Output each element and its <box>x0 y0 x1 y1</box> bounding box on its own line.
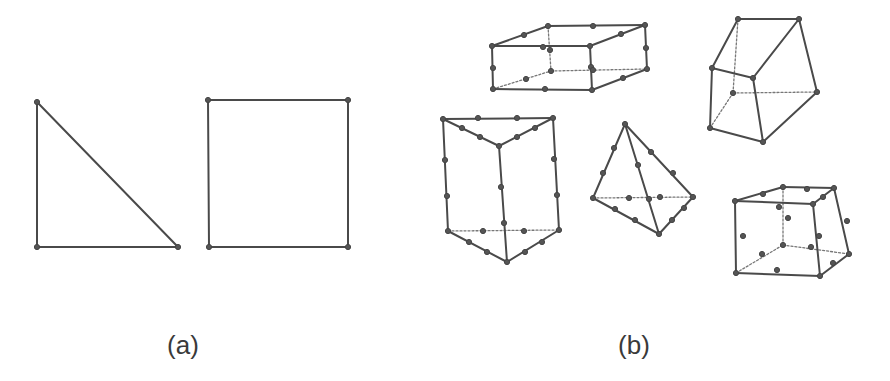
node-point <box>539 239 544 244</box>
node-point <box>206 244 211 249</box>
node-point <box>205 97 210 102</box>
node-point <box>831 185 836 190</box>
node-point <box>820 194 825 199</box>
node-point <box>489 43 494 48</box>
node-point <box>635 162 640 167</box>
edge <box>735 187 783 201</box>
node-point <box>514 134 519 139</box>
node-point <box>681 205 686 210</box>
node-point <box>643 45 648 50</box>
node-point <box>445 228 450 233</box>
node-point <box>646 196 651 201</box>
node-point <box>656 231 661 236</box>
node-point <box>345 97 350 102</box>
hidden-edge <box>493 71 551 89</box>
node-point <box>780 184 785 189</box>
node-point <box>496 143 501 148</box>
node-point <box>814 89 819 94</box>
node-point <box>707 125 712 130</box>
edge <box>443 118 553 119</box>
hidden-edge <box>551 69 647 71</box>
panel-b-3d-elements <box>440 16 851 278</box>
edge <box>507 230 559 262</box>
node-point <box>590 195 595 200</box>
node-point <box>642 22 647 27</box>
node-point <box>547 47 552 52</box>
node-point <box>442 157 447 162</box>
edge <box>813 204 820 276</box>
node-point <box>618 31 623 36</box>
edge <box>735 201 736 273</box>
tetrahedron-10-node-element <box>590 121 695 236</box>
node-point <box>776 204 781 209</box>
node-point <box>690 194 695 199</box>
edge <box>659 197 693 234</box>
node-point <box>632 217 637 222</box>
node-point <box>612 206 617 211</box>
node-point <box>477 134 482 139</box>
node-point <box>490 86 495 91</box>
node-point <box>626 195 631 200</box>
edge <box>712 19 738 68</box>
node-point <box>774 267 779 272</box>
caption-label-a: (a) <box>167 330 199 361</box>
hidden-edge <box>593 197 693 198</box>
node-point <box>587 43 592 48</box>
node-point <box>733 270 738 275</box>
node-point <box>846 251 851 256</box>
edge <box>753 78 763 142</box>
hidden-edge <box>733 19 738 93</box>
node-point <box>514 115 519 120</box>
node-point <box>760 191 765 196</box>
quadrilateral-element <box>205 97 350 249</box>
finite-element-diagram <box>0 0 890 381</box>
caption-label-b: (b) <box>618 330 650 361</box>
edge <box>710 128 763 142</box>
edge <box>736 273 820 276</box>
node-point <box>657 194 662 199</box>
node-point <box>345 244 350 249</box>
node-point <box>523 76 528 81</box>
node-point <box>550 115 555 120</box>
edge <box>499 118 553 146</box>
edge <box>448 231 507 262</box>
node-point <box>735 16 740 21</box>
node-point <box>732 198 737 203</box>
node-point <box>542 86 547 91</box>
node-point <box>648 149 653 154</box>
node-point <box>830 260 835 265</box>
node-point <box>504 259 509 264</box>
triangle-element <box>34 99 180 249</box>
edge <box>499 146 507 262</box>
node-point <box>804 186 809 191</box>
node-point <box>759 251 764 256</box>
edge <box>590 25 645 46</box>
edge <box>443 119 448 231</box>
node-point <box>480 228 485 233</box>
edge <box>593 124 625 198</box>
wedge-15-node-element <box>440 115 561 264</box>
edge <box>443 119 499 146</box>
edge <box>735 201 813 204</box>
hexahedron-20-node-element <box>489 22 649 92</box>
node-point <box>466 239 471 244</box>
edge <box>553 118 559 230</box>
node-point <box>490 65 495 70</box>
hexahedron-8-node-element <box>707 16 819 144</box>
node-point <box>620 75 625 80</box>
node-point <box>816 233 821 238</box>
node-point <box>796 16 801 21</box>
node-point <box>590 23 595 28</box>
node-point <box>669 217 674 222</box>
edge <box>37 102 178 247</box>
edge <box>592 69 647 90</box>
node-point <box>475 115 480 120</box>
node-point <box>644 66 649 71</box>
node-point <box>780 242 785 247</box>
node-point <box>730 90 735 95</box>
edge <box>625 124 693 197</box>
node-point <box>590 67 595 72</box>
edge <box>548 25 645 26</box>
edge <box>763 92 817 142</box>
node-point <box>750 75 755 80</box>
